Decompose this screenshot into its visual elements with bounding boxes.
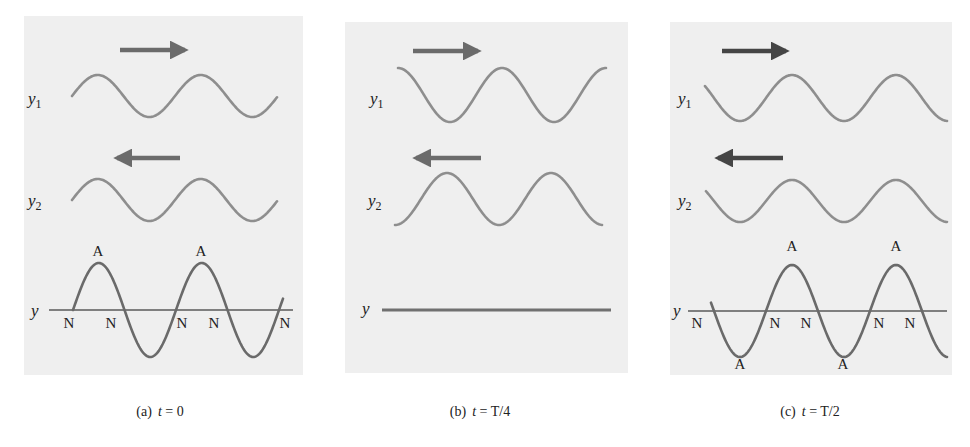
panel-c: y1 y2 y AAAA NNNNN (c)t = T/2 xyxy=(670,22,952,420)
antinode-label: A xyxy=(735,356,746,372)
panel-a-y-label: y xyxy=(29,301,39,320)
panel-c-y-label: y xyxy=(671,301,681,320)
node-label: N xyxy=(874,315,885,331)
node-label: N xyxy=(209,315,220,331)
panel-b-y-label: y xyxy=(360,299,370,318)
antinode-label: A xyxy=(196,243,207,259)
standing-wave-figure: y1 y2 y AA NNNNN (a)t = 0 y1 y2 y (b)t =… xyxy=(0,0,970,447)
panel-b: y1 y2 y (b)t = T/4 xyxy=(345,22,628,420)
panel-c-caption: (c)t = T/2 xyxy=(780,404,840,420)
panel-a: y1 y2 y AA NNNNN (a)t = 0 xyxy=(24,16,303,420)
antinode-label: A xyxy=(891,238,902,254)
antinode-label: A xyxy=(93,243,104,259)
node-label: N xyxy=(177,315,188,331)
node-label: N xyxy=(64,315,75,331)
panel-b-background xyxy=(345,22,628,373)
node-label: N xyxy=(905,315,916,331)
panel-b-caption: (b)t = T/4 xyxy=(450,404,510,420)
node-label: N xyxy=(801,315,812,331)
node-label: N xyxy=(770,315,781,331)
node-label: N xyxy=(106,315,117,331)
node-label: N xyxy=(692,315,703,331)
antinode-label: A xyxy=(787,238,798,254)
node-label: N xyxy=(280,315,291,331)
panel-a-caption: (a)t = 0 xyxy=(136,404,183,420)
antinode-label: A xyxy=(838,356,849,372)
